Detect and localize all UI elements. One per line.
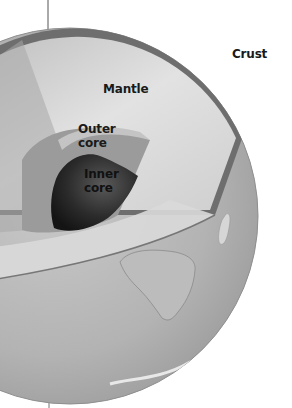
earth-layers-diagram: Crust Mantle Outer core Inner core xyxy=(0,0,292,408)
label-inner-core-line1: Inner xyxy=(84,167,119,181)
label-crust: Crust xyxy=(232,47,267,61)
label-inner-core: Inner core xyxy=(84,167,119,195)
earth-cutaway-illustration xyxy=(0,0,292,408)
label-outer-core-line2: core xyxy=(78,136,116,150)
label-inner-core-line2: core xyxy=(84,181,119,195)
label-outer-core: Outer core xyxy=(78,122,116,150)
label-mantle: Mantle xyxy=(103,82,148,96)
label-outer-core-line1: Outer xyxy=(78,122,116,136)
